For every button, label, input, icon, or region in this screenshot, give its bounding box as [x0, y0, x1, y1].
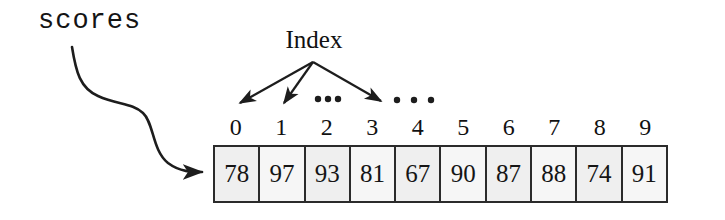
- index-number-row: 0 1 2 3 4 5 6 7 8 9: [213, 112, 668, 142]
- index-label: 6: [486, 112, 532, 142]
- index-label: 1: [259, 112, 305, 142]
- ellipsis-inner-icon: [315, 96, 341, 102]
- index-caption-label: Index: [278, 26, 350, 54]
- index-arrow-0: [240, 62, 313, 103]
- scores-pointer-arrow: [72, 47, 202, 172]
- index-label: 5: [441, 112, 487, 142]
- ellipsis-outer-icon: [394, 97, 434, 103]
- index-label: 2: [304, 112, 350, 142]
- index-label: 7: [532, 112, 578, 142]
- index-label: 0: [213, 112, 259, 142]
- index-label: 8: [577, 112, 623, 142]
- array-cell: 91: [623, 147, 666, 201]
- index-arrow-1: [284, 62, 313, 103]
- array-cell: 87: [487, 147, 532, 201]
- array-cell: 90: [441, 147, 486, 201]
- array-cell: 93: [306, 147, 351, 201]
- array-diagram: scores Index: [0, 0, 725, 220]
- array-cell: 78: [215, 147, 260, 201]
- index-label: 9: [623, 112, 669, 142]
- index-label: 3: [350, 112, 396, 142]
- index-label: 4: [395, 112, 441, 142]
- array-cell: 81: [351, 147, 396, 201]
- variable-name-label: scores: [38, 6, 141, 36]
- index-arrow-3: [313, 62, 381, 101]
- array-cell: 88: [532, 147, 577, 201]
- array-cell: 97: [260, 147, 305, 201]
- array-cell: 67: [396, 147, 441, 201]
- array-cells: 78 97 93 81 67 90 87 88 74 91: [213, 145, 668, 203]
- array-cell: 74: [577, 147, 622, 201]
